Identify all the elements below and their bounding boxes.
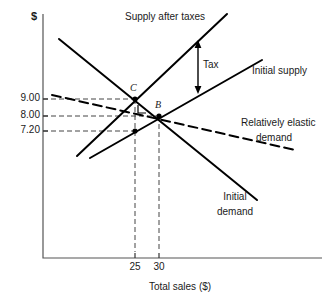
tax-arrow-head-down — [195, 86, 202, 94]
annotation-label-tax: Tax — [203, 60, 219, 71]
series-label-relatively-elastic-demand-line1: Relatively elastic — [241, 118, 315, 129]
series-label-initial-demand-line1: Initial — [213, 192, 257, 203]
series-label-initial-supply: Initial supply — [252, 66, 307, 77]
chart-canvas — [0, 0, 336, 304]
y-tick-label-9-00: 9.00 — [6, 93, 40, 104]
supply-demand-chart: $ 9.00 8.00 7.20 25 30 Total sales ($) S… — [0, 0, 336, 304]
series-label-supply-after-taxes: Supply after taxes — [125, 12, 205, 23]
point-marker-b — [156, 113, 161, 118]
series-label-relatively-elastic-demand-line2: demand — [256, 133, 292, 144]
y-tick-label-8-00: 8.00 — [6, 110, 40, 121]
series-label-initial-demand-line2: demand — [206, 207, 264, 218]
point-marker-c — [132, 96, 137, 101]
y-tick-label-7-20: 7.20 — [6, 125, 40, 136]
x-tick-label-30: 30 — [144, 262, 174, 273]
point-marker-7-20 — [132, 128, 137, 133]
x-axis-title: Total sales ($) — [130, 282, 230, 293]
point-label-b: B — [155, 100, 161, 111]
point-label-c: C — [130, 83, 137, 94]
series-line-supply-after-taxes — [77, 14, 227, 156]
y-axis-unit-label: $ — [27, 11, 41, 23]
